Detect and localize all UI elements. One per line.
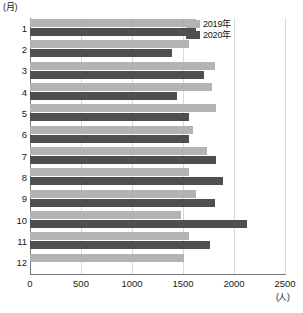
y-tick-label-9: 9 <box>3 194 27 204</box>
bar-month-2-2020 <box>30 49 172 57</box>
y-tick-label-3: 3 <box>3 66 27 76</box>
x-tick-label-500: 500 <box>73 278 89 290</box>
bar-group-month-5 <box>30 103 285 124</box>
bar-month-10-2019 <box>30 211 181 219</box>
bar-month-1-2019 <box>30 19 196 27</box>
bar-month-8-2020 <box>30 177 223 185</box>
legend-swatch-icon-2020 <box>186 31 200 39</box>
legend-swatch-icon-2019 <box>186 20 200 28</box>
y-axis-unit-label: (月) <box>3 2 17 13</box>
bar-month-3-2020 <box>30 71 204 79</box>
bar-month-9-2020 <box>30 199 215 207</box>
x-tick-label-2000: 2000 <box>223 278 244 290</box>
bar-month-7-2019 <box>30 147 207 155</box>
bar-group-month-3 <box>30 61 285 82</box>
x-tick-label-2500: 2500 <box>274 278 295 290</box>
x-axis-tick-labels: 05001000150020002500 <box>0 278 303 294</box>
legend-label-2019: 2019年 <box>203 19 231 29</box>
y-tick-label-8: 8 <box>3 173 27 183</box>
bar-month-9-2019 <box>30 190 196 198</box>
y-tick-label-6: 6 <box>3 130 27 140</box>
bar-group-month-2 <box>30 39 285 60</box>
bar-month-2-2019 <box>30 40 189 48</box>
bar-month-10-2020 <box>30 220 247 228</box>
y-tick-label-7: 7 <box>3 152 27 162</box>
x-tick-label-0: 0 <box>27 278 32 290</box>
y-tick-label-2: 2 <box>3 45 27 55</box>
bar-month-4-2019 <box>30 83 212 91</box>
chart-legend: 2019年2020年 <box>186 19 231 41</box>
y-tick-label-5: 5 <box>3 109 27 119</box>
bar-chart: (月) 123456789101112 05001000150020002500… <box>0 0 303 313</box>
y-tick-label-11: 11 <box>3 237 27 247</box>
bar-month-3-2019 <box>30 62 215 70</box>
bar-group-month-12 <box>30 253 285 274</box>
gridline-2500 <box>285 18 286 274</box>
bar-group-month-11 <box>30 231 285 252</box>
bar-month-12-2019 <box>30 254 184 262</box>
bar-month-4-2020 <box>30 92 177 100</box>
bar-month-8-2019 <box>30 168 189 176</box>
bar-group-month-7 <box>30 146 285 167</box>
x-axis-line <box>30 274 286 275</box>
x-tick-label-1000: 1000 <box>121 278 142 290</box>
bar-group-month-6 <box>30 125 285 146</box>
bar-group-month-1 <box>30 18 285 39</box>
bar-group-month-9 <box>30 189 285 210</box>
bar-month-1-2020 <box>30 28 196 36</box>
plot-area <box>30 18 285 274</box>
x-tick-label-1500: 1500 <box>172 278 193 290</box>
bar-month-11-2020 <box>30 241 210 249</box>
legend-label-2020: 2020年 <box>203 30 231 40</box>
bar-month-6-2020 <box>30 135 189 143</box>
bar-month-6-2019 <box>30 126 193 134</box>
bar-group-month-4 <box>30 82 285 103</box>
y-tick-label-4: 4 <box>3 88 27 98</box>
bar-month-5-2019 <box>30 104 216 112</box>
legend-entry-2019: 2019年 <box>186 19 231 29</box>
bar-group-month-10 <box>30 210 285 231</box>
y-tick-label-10: 10 <box>3 216 27 226</box>
y-tick-label-1: 1 <box>3 24 27 34</box>
legend-entry-2020: 2020年 <box>186 30 231 40</box>
x-axis-unit-label: (人) <box>276 292 289 303</box>
bar-group-month-8 <box>30 167 285 188</box>
bar-month-5-2020 <box>30 113 189 121</box>
y-tick-label-12: 12 <box>3 258 27 268</box>
y-axis-tick-labels: 123456789101112 <box>0 18 27 274</box>
bar-month-7-2020 <box>30 156 216 164</box>
bar-month-11-2019 <box>30 232 189 240</box>
